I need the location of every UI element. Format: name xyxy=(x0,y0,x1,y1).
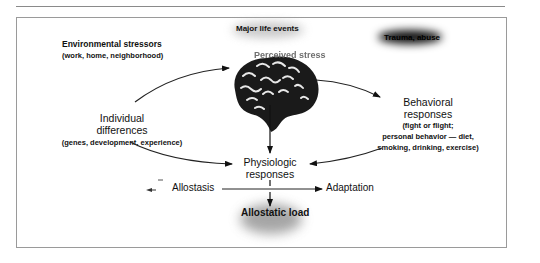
arrow-individual-to-physiologic xyxy=(130,142,232,164)
arrows-layer xyxy=(0,0,540,263)
arrow-individual-to-brain xyxy=(135,68,229,102)
arrow-fragment-artifacts xyxy=(146,180,163,192)
arrow-brain-to-behavioral xyxy=(316,80,380,97)
arrow-behavioral-to-physiologic xyxy=(310,148,382,164)
